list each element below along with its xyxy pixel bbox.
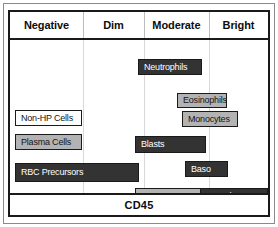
population-bar-plasma-cells: Plasma Cells (15, 134, 82, 150)
population-bar-non-hp-cells: Non-HP Cells (15, 110, 82, 126)
column-header-bright: Bright (209, 12, 268, 38)
population-bar-rbc-precursors: RBC Precursors (15, 163, 139, 182)
plot-area: NeutrophilsEosinophilsMonocytesNon-HP Ce… (10, 40, 268, 193)
population-bar-blasts: Blasts (135, 136, 206, 153)
cd45-expression-diagram: NegativeDimModerateBright NeutrophilsEos… (0, 0, 278, 227)
column-header-negative: Negative (10, 12, 83, 38)
header-divider-2 (144, 12, 145, 38)
axis-label-cd45: CD45 (125, 199, 154, 211)
population-bar-baso: Baso (185, 161, 228, 177)
plot-box: NegativeDimModerateBright NeutrophilsEos… (8, 10, 270, 195)
header-divider-1 (83, 12, 84, 38)
column-header-moderate: Moderate (144, 12, 209, 38)
header-divider-3 (209, 12, 210, 38)
population-bar-neutrophils: Neutrophils (138, 59, 202, 75)
column-header-dim: Dim (83, 12, 144, 38)
population-bar-monocytes: Monocytes (182, 111, 238, 127)
column-header-band: NegativeDimModerateBright (10, 12, 268, 40)
axis-label-strip: CD45 (8, 195, 270, 217)
population-bar-lymphocytes: Lymphocytes (200, 188, 268, 193)
population-bar-hematogones: Hematogones (135, 188, 201, 193)
population-bar-eosinophils: Eosinophils (177, 93, 227, 108)
